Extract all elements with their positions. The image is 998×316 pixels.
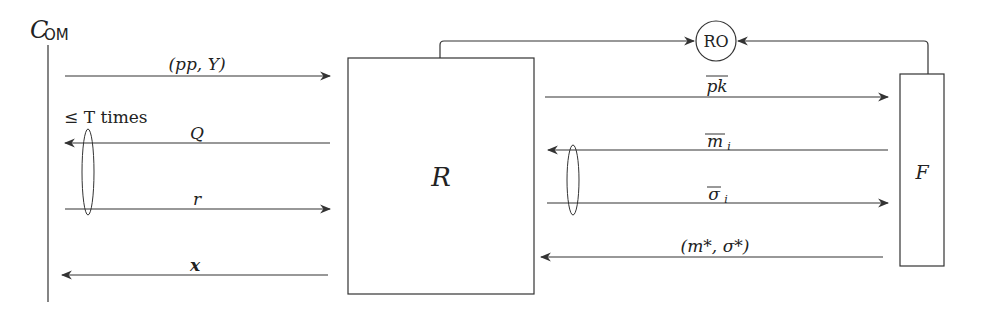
message-r: r [65, 189, 330, 209]
box-r: R [348, 58, 534, 294]
message-x: x [62, 255, 328, 275]
repeat-ellipse-right [567, 145, 579, 215]
message-pp-y: (pp, Y) [65, 54, 330, 76]
r-to-oracle-connector [440, 41, 694, 58]
message-label: x [189, 255, 201, 275]
message-m-i: m i [548, 131, 888, 153]
random-oracle: RO [440, 21, 928, 74]
oracle-label: RO [703, 32, 728, 51]
protocol-diagram: C OM ≤ T times (pp, Y) Q r x R F RO [0, 0, 998, 316]
message-pk: pk [545, 76, 888, 97]
message-label: m [707, 131, 723, 151]
message-label: r [193, 189, 202, 209]
f-to-oracle-connector [738, 41, 928, 74]
box-f-label: F [914, 161, 929, 183]
message-label: (pp, Y) [168, 54, 225, 74]
message-label: (m*, σ*) [681, 236, 750, 256]
box-f: F [900, 74, 944, 266]
message-label: σ [708, 184, 720, 204]
participant-com: C OM [30, 16, 69, 302]
repeat-note: ≤ T times [64, 107, 148, 127]
repeat-ellipse-left [82, 129, 94, 215]
message-label: Q [190, 123, 204, 143]
box-r-label: R [430, 162, 451, 192]
message-sigma-i: σ i [547, 184, 888, 206]
message-subscript: i [727, 140, 731, 153]
participant-com-subscript: OM [44, 26, 69, 44]
message-m-star-sigma-star: (m*, σ*) [541, 236, 883, 257]
message-subscript: i [724, 193, 728, 206]
message-label: pk [706, 76, 727, 96]
